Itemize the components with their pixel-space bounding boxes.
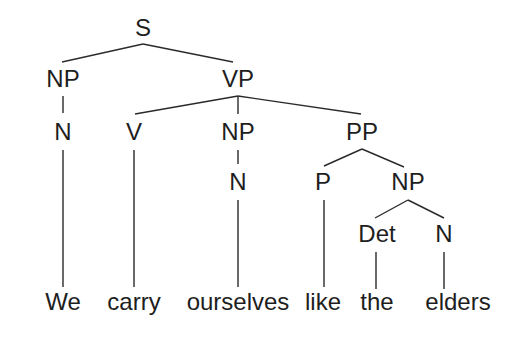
tree-edge (324, 149, 362, 166)
word-the: the (360, 290, 393, 314)
tree-edge (62, 44, 143, 62)
tree-edge (143, 44, 233, 62)
node-vp: VP (222, 67, 254, 91)
tree-edge (135, 96, 238, 114)
node-np-pp: NP (391, 170, 424, 194)
node-np-object: NP (221, 120, 254, 144)
node-n-object: N (229, 170, 246, 194)
word-carry: carry (107, 290, 160, 314)
node-n-subject: N (54, 120, 71, 144)
node-n-pp: N (435, 222, 452, 246)
tree-edge (362, 149, 404, 167)
tree-edge (375, 200, 408, 218)
node-np-subject: NP (46, 67, 79, 91)
word-ourselves: ourselves (187, 290, 290, 314)
syntax-tree: S NP VP N V NP PP N P NP Det N We carry … (0, 0, 522, 339)
node-pp: PP (346, 120, 378, 144)
node-s: S (135, 16, 151, 40)
word-like: like (305, 290, 341, 314)
word-elders: elders (425, 290, 490, 314)
node-p: P (315, 170, 331, 194)
word-we: We (45, 290, 81, 314)
tree-edge (238, 96, 361, 114)
node-det: Det (358, 222, 395, 246)
tree-edge (408, 200, 444, 218)
node-v: V (126, 120, 142, 144)
